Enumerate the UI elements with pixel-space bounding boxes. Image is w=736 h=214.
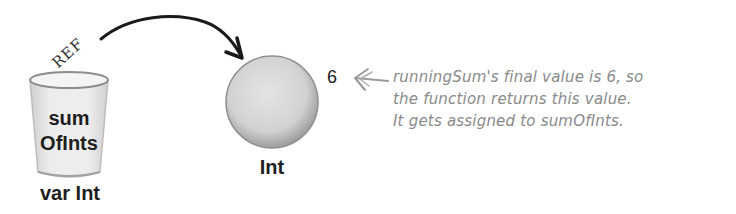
variable-type-label: var Int [20, 182, 120, 205]
object-type-label: Int [240, 156, 304, 179]
int-object-icon [226, 56, 318, 148]
annotation-line-2: the function returns this value. [393, 88, 643, 110]
annotation-line-3: It gets assigned to sumOfInts. [393, 110, 643, 132]
variable-name-line1: sum [19, 106, 119, 130]
annotation-line-1: runningSum's final value is 6, so [393, 66, 643, 88]
annotation-arrow-icon [355, 69, 388, 90]
annotation-text: runningSum's final value is 6, so the fu… [393, 66, 643, 132]
variable-name-line2: OfInts [19, 131, 119, 155]
object-value: 6 [327, 67, 337, 88]
reference-arrow-icon [101, 17, 242, 58]
